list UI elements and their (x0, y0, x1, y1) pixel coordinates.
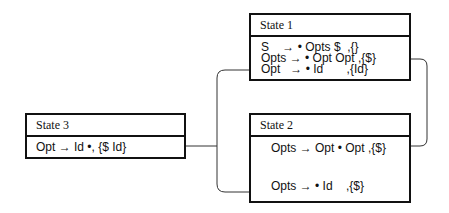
state-2-box: State 2 Opts → Opt • Opt ,{$} Opts → • I… (249, 113, 411, 203)
state-2-item-2: Opts → • Id ,{$} (271, 181, 364, 192)
state-3-box: State 3 Opt → Id •, {$ Id} (25, 113, 186, 159)
state-1-box: State 1 S → • Opts $ ,{} Opts → • Opt Op… (249, 13, 411, 81)
state-2-title: State 2 (251, 115, 409, 137)
state-1-title: State 1 (251, 15, 409, 37)
state-3-title: State 3 (27, 115, 184, 137)
state-2-item-1: Opts → Opt • Opt ,{$} (271, 143, 386, 154)
state-1-item-3: Opt → • Id ,{Id} (261, 64, 368, 75)
state-3-item-1: Opt → Id •, {$ Id} (36, 142, 126, 153)
